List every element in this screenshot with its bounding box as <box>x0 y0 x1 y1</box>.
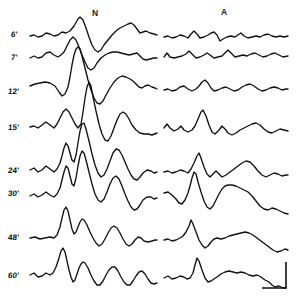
calibration-marker <box>262 262 286 288</box>
waveform-trace <box>164 31 288 41</box>
waveform-trace <box>164 153 288 177</box>
waveform-trace <box>164 50 288 58</box>
waveform-plot <box>0 0 300 304</box>
trace-group <box>30 17 288 288</box>
waveform-trace <box>30 47 157 104</box>
waveform-trace <box>164 258 286 288</box>
waveform-figure: N A 6' 7' 12' 15' 24' 30' 48' 60' <box>0 0 300 304</box>
waveform-trace <box>30 207 157 246</box>
scale-bar-path <box>262 262 286 288</box>
waveform-trace <box>30 37 157 70</box>
waveform-trace <box>164 80 288 91</box>
waveform-trace <box>164 172 288 214</box>
waveform-trace <box>30 82 157 141</box>
waveform-trace <box>30 248 157 285</box>
waveform-trace <box>164 220 288 252</box>
waveform-trace <box>164 110 288 135</box>
waveform-trace <box>30 17 157 52</box>
